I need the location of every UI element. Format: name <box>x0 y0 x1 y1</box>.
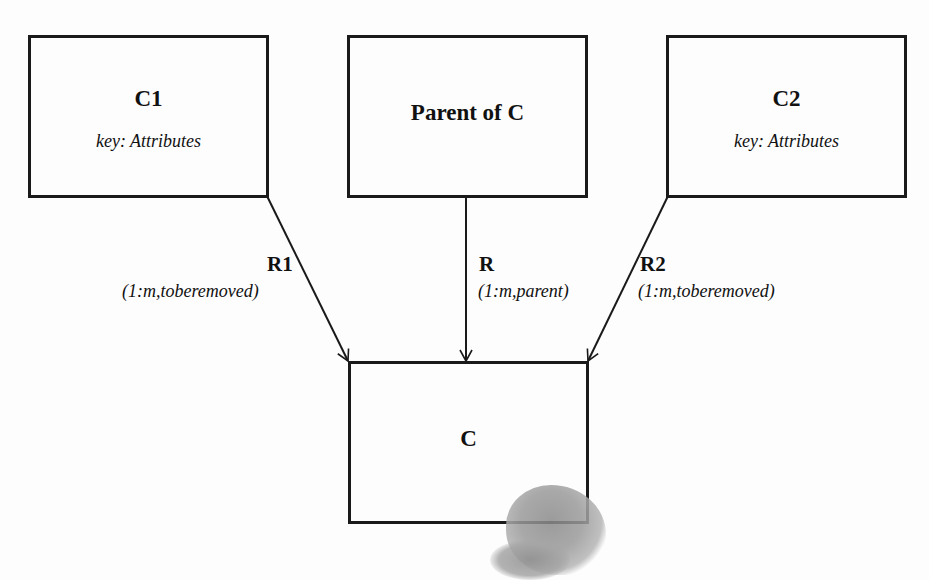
entity-attribute: key: Attributes <box>31 131 266 152</box>
arrow-r2 <box>588 196 668 361</box>
entity-title: C <box>351 426 586 452</box>
entity-title: C1 <box>31 86 266 112</box>
scan-stain-lower <box>490 540 570 580</box>
entity-title: C2 <box>669 86 904 112</box>
relationship-r2-name: R2 <box>640 252 666 277</box>
entity-parent-of-c: Parent of C <box>347 35 588 198</box>
arrow-r1 <box>267 196 348 361</box>
relationship-r-cardinality: (1:m,parent) <box>478 281 569 302</box>
relationship-r1-name: R1 <box>267 252 293 277</box>
relationship-r1-cardinality: (1:m,toberemoved) <box>122 281 259 302</box>
entity-title: Parent of C <box>350 100 585 126</box>
entity-c2: C2 key: Attributes <box>666 35 907 198</box>
relationship-r-name: R <box>479 252 494 277</box>
entity-attribute: key: Attributes <box>669 131 904 152</box>
entity-c1: C1 key: Attributes <box>28 35 269 198</box>
relationship-r2-cardinality: (1:m,toberemoved) <box>638 281 775 302</box>
